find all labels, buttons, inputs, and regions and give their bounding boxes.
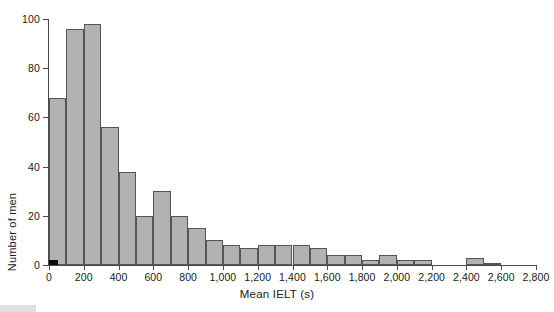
histogram-bar <box>136 216 153 265</box>
x-tick-mark <box>293 266 294 270</box>
histogram-bar <box>171 216 188 265</box>
histogram-bar <box>484 263 501 265</box>
x-tick-label: 2,800 <box>510 272 554 283</box>
y-tick-label: 60 <box>2 112 40 122</box>
histogram-bar <box>275 245 292 265</box>
histogram-bar <box>310 248 327 265</box>
bars-container <box>49 19 536 265</box>
x-tick-mark <box>49 266 50 270</box>
y-tick-label: 0 <box>2 260 40 270</box>
x-tick-mark <box>362 266 363 270</box>
histogram-bar <box>258 245 275 265</box>
histogram-bar <box>49 98 66 265</box>
histogram-figure: Number of men 020406080100 0200400600800… <box>0 0 554 312</box>
histogram-bar <box>188 228 205 265</box>
histogram-bar <box>345 255 362 265</box>
y-tick-label: 100 <box>2 14 40 24</box>
x-tick-mark <box>466 266 467 270</box>
y-tick-label: 80 <box>2 63 40 73</box>
histogram-bar <box>119 172 136 265</box>
x-axis-title: Mean IELT (s) <box>0 288 554 300</box>
histogram-bar <box>206 240 223 265</box>
histogram-bar-highlight <box>49 260 58 265</box>
y-tick-mark <box>43 167 48 168</box>
x-tick-mark <box>153 266 154 270</box>
y-tick-mark <box>43 117 48 118</box>
x-tick-mark <box>84 266 85 270</box>
histogram-bar <box>101 127 118 265</box>
page-artifact <box>0 305 36 312</box>
x-tick-mark <box>397 266 398 270</box>
histogram-bar <box>397 260 414 265</box>
histogram-bar <box>327 255 344 265</box>
x-tick-mark <box>327 266 328 270</box>
histogram-bar <box>66 29 83 265</box>
y-tick-label: 40 <box>2 162 40 172</box>
histogram-bar <box>414 260 431 265</box>
y-axis-title: Number of men <box>6 172 18 292</box>
x-tick-mark <box>258 266 259 270</box>
x-tick-mark <box>536 266 537 270</box>
histogram-bar <box>466 258 483 265</box>
y-tick-mark <box>43 68 48 69</box>
histogram-bar <box>240 248 257 265</box>
histogram-bar <box>293 245 310 265</box>
y-tick-label: 20 <box>2 211 40 221</box>
x-tick-mark <box>501 266 502 270</box>
y-tick-mark <box>43 265 48 266</box>
histogram-bar <box>84 24 101 265</box>
histogram-bar <box>223 245 240 265</box>
y-tick-mark <box>43 19 48 20</box>
x-tick-mark <box>188 266 189 270</box>
y-tick-mark <box>43 216 48 217</box>
histogram-bar <box>153 191 170 265</box>
x-tick-mark <box>223 266 224 270</box>
x-tick-mark <box>432 266 433 270</box>
histogram-bar <box>379 255 396 265</box>
x-tick-mark <box>119 266 120 270</box>
histogram-bar <box>362 260 379 265</box>
